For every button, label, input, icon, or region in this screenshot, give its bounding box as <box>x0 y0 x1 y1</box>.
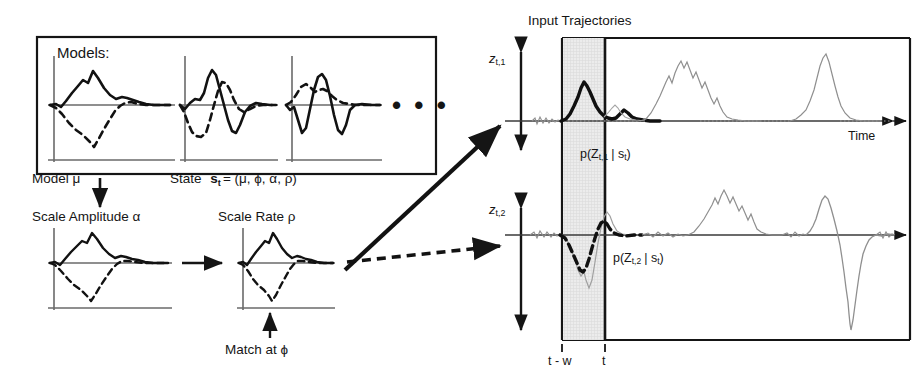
state-equation: = (μ, ϕ, α, ρ) <box>223 171 297 186</box>
tick-label-t: t <box>602 355 605 368</box>
scale-amplitude-dashed-curve <box>50 261 168 301</box>
model-1-dashed-curve <box>50 102 170 147</box>
tick-label-t-minus-w: t - w <box>548 355 572 368</box>
prob1-prefix: p(Z <box>580 147 599 161</box>
models-title: Models: <box>57 45 110 60</box>
state-variable-subscript: t <box>218 178 221 188</box>
model-2-solid-curve <box>180 70 276 133</box>
model-panel-1 <box>48 56 175 162</box>
model-mu-label: Model μ <box>32 172 80 186</box>
match-at-phi-label: Match at ϕ <box>225 343 288 357</box>
model-panel-2 <box>180 56 278 162</box>
prob1-subscript: t,1 <box>599 152 608 162</box>
figure-root: Models: • • • Model μ State st= (μ, ϕ, α… <box>0 0 918 387</box>
models-ellipsis: • • • <box>392 92 449 118</box>
prob2-subscript: t,2 <box>632 256 641 266</box>
probability-label-2: p(Zt,2| st) <box>613 252 664 266</box>
scale-amplitude-label: Scale Amplitude α <box>32 210 140 224</box>
model-3-dashed-curve <box>286 84 380 105</box>
panel2-faint-major-spike <box>806 196 894 330</box>
model-panel-3 <box>286 56 382 162</box>
input-trajectories-title: Input Trajectories <box>528 14 632 28</box>
panel2-faint-burst-hump <box>688 190 782 235</box>
scale-amplitude-panel <box>48 228 172 310</box>
model-1-solid-curve <box>50 71 170 107</box>
axis-label-z-t-2: zt,2 <box>489 203 505 218</box>
diagram-canvas <box>0 0 918 387</box>
state-label: State st= (μ, ϕ, α, ρ) <box>170 172 297 188</box>
scale-rate-label: Scale Rate ρ <box>218 210 295 224</box>
axis-z1-subscript: t,1 <box>496 57 506 67</box>
trajectories-frame <box>562 38 910 340</box>
state-label-prefix: State <box>170 171 202 186</box>
time-axis-label: Time <box>848 130 875 143</box>
scale-rate-dashed-curve <box>239 261 333 301</box>
panel1-faint-burst-3 <box>790 54 880 121</box>
prob1-mid: | s <box>611 147 624 161</box>
prob2-prefix: p(Z <box>613 251 632 265</box>
prob1-post: ) <box>627 147 631 161</box>
state-variable: s <box>210 171 218 186</box>
axis-label-z-t-1: zt,1 <box>489 52 505 67</box>
scale-rate-solid-curve <box>239 233 333 265</box>
scale-rate-panel <box>237 228 335 338</box>
panel1-faint-burst-2 <box>640 61 760 121</box>
probability-label-1: p(Zt,1| st) <box>580 148 631 162</box>
connector-arrow-solid <box>345 126 500 270</box>
axis-z2-subscript: t,2 <box>496 208 506 218</box>
prob2-mid: | s <box>644 251 657 265</box>
scale-amplitude-solid-curve <box>50 233 168 265</box>
prob2-post: ) <box>660 251 664 265</box>
